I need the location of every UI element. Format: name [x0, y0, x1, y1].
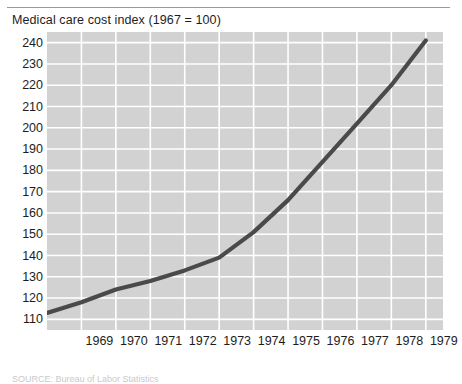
y-tick-label: 110	[3, 313, 43, 325]
source-note: SOURCE: Bureau of Labor Statistics	[12, 374, 159, 384]
y-axis: 2402302202102001901801701601501401301201…	[0, 0, 43, 384]
y-tick-label: 180	[3, 164, 43, 176]
chart-title: Medical care cost index (1967 = 100)	[12, 13, 221, 27]
y-tick-label: 120	[3, 292, 43, 304]
y-tick-label: 230	[3, 58, 43, 70]
y-tick-label: 210	[3, 101, 43, 113]
series-line-medical-care-cost-index	[47, 41, 426, 313]
y-tick-label: 240	[3, 37, 43, 49]
y-tick-label: 170	[3, 186, 43, 198]
x-axis: 1969197019711972197319741975197619771978…	[47, 334, 443, 352]
y-tick-label: 140	[3, 250, 43, 262]
y-tick-label: 200	[3, 122, 43, 134]
y-tick-label: 190	[3, 143, 43, 155]
x-tick-label: 1979	[422, 334, 462, 348]
y-tick-label: 160	[3, 207, 43, 219]
y-tick-label: 150	[3, 228, 43, 240]
y-tick-label: 220	[3, 79, 43, 91]
title-rule	[7, 7, 450, 8]
y-tick-label: 130	[3, 271, 43, 283]
plot-area	[47, 32, 443, 330]
data-line	[47, 32, 443, 330]
